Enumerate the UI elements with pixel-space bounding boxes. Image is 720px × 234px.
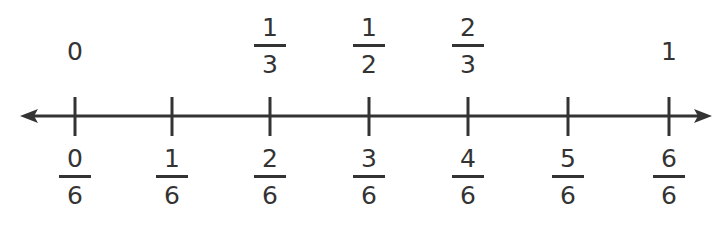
bottom-fraction-4-6: 4 6 — [443, 145, 493, 210]
top-label-zero: 0 — [50, 38, 100, 66]
denominator: 3 — [443, 51, 493, 79]
top-label-one: 1 — [644, 38, 694, 66]
bottom-fraction-5-6: 5 6 — [543, 145, 593, 210]
bottom-fraction-1-6: 1 6 — [147, 145, 197, 210]
fraction-bar — [254, 175, 286, 178]
numerator: 0 — [50, 145, 100, 173]
top-fraction-two-thirds: 2 3 — [443, 14, 493, 79]
bottom-fraction-2-6: 2 6 — [245, 145, 295, 210]
denominator: 3 — [245, 51, 295, 79]
fraction-bar — [353, 175, 385, 178]
numerator: 6 — [644, 145, 694, 173]
denominator: 2 — [344, 51, 394, 79]
numerator: 2 — [245, 145, 295, 173]
fraction-bar — [452, 44, 484, 47]
bottom-fraction-6-6: 6 6 — [644, 145, 694, 210]
denominator: 6 — [50, 182, 100, 210]
numerator: 4 — [443, 145, 493, 173]
denominator: 6 — [644, 182, 694, 210]
numerator: 1 — [245, 14, 295, 42]
denominator: 6 — [443, 182, 493, 210]
numerator: 5 — [543, 145, 593, 173]
numerator: 2 — [443, 14, 493, 42]
denominator: 6 — [147, 182, 197, 210]
bottom-fraction-0-6: 0 6 — [50, 145, 100, 210]
top-fraction-one-half: 1 2 — [344, 14, 394, 79]
fraction-bar — [552, 175, 584, 178]
bottom-fraction-3-6: 3 6 — [344, 145, 394, 210]
fraction-bar — [452, 175, 484, 178]
denominator: 6 — [344, 182, 394, 210]
numerator: 1 — [147, 145, 197, 173]
denominator: 6 — [543, 182, 593, 210]
denominator: 6 — [245, 182, 295, 210]
fraction-bar — [156, 175, 188, 178]
numerator: 1 — [344, 14, 394, 42]
numerator: 3 — [344, 145, 394, 173]
fraction-bar — [59, 175, 91, 178]
fraction-bar — [254, 44, 286, 47]
top-fraction-one-third: 1 3 — [245, 14, 295, 79]
fraction-bar — [653, 175, 685, 178]
fraction-bar — [353, 44, 385, 47]
